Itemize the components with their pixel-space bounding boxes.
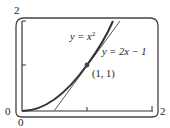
tangent-label: y = 2x − 1 — [101, 46, 147, 57]
outer-frame-bottom — [16, 112, 158, 117]
tangency-point — [85, 63, 90, 68]
x-origin-label: 0 — [18, 116, 24, 128]
chart-canvas: 2 0 0 2 y = x2 y = 2x − 1 (1, 1) — [0, 0, 170, 128]
point-label: (1, 1) — [92, 68, 115, 80]
y-top-label: 2 — [14, 4, 20, 16]
parabola-curve — [22, 21, 113, 111]
parabola-label: y = x2 — [69, 30, 96, 42]
y-origin-label: 0 — [5, 105, 11, 117]
x-right-label: 2 — [160, 105, 166, 117]
